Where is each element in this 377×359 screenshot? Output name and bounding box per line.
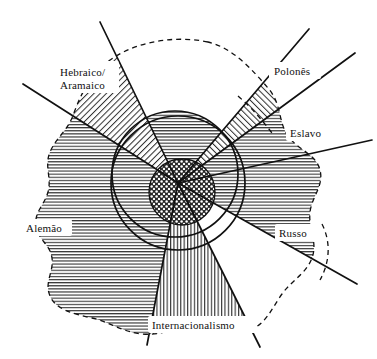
label-alemao: Alemão xyxy=(26,222,62,234)
label-hebraico-line1: Hebraico/ xyxy=(60,66,106,78)
label-eslavo: Eslavo xyxy=(290,127,321,139)
label-russo: Russo xyxy=(279,227,307,239)
label-hebraico-line2: Aramaico xyxy=(60,79,105,91)
label-polones: Polonês xyxy=(274,65,310,77)
figure-root: Hebraico/ Aramaico Polonês Eslavo Russo … xyxy=(0,0,377,359)
label-internacionalismo: Internacionalismo xyxy=(152,319,235,331)
label-hebraico-aramaico: Hebraico/ Aramaico xyxy=(60,66,108,91)
language-influence-diagram: Hebraico/ Aramaico Polonês Eslavo Russo … xyxy=(0,0,377,359)
